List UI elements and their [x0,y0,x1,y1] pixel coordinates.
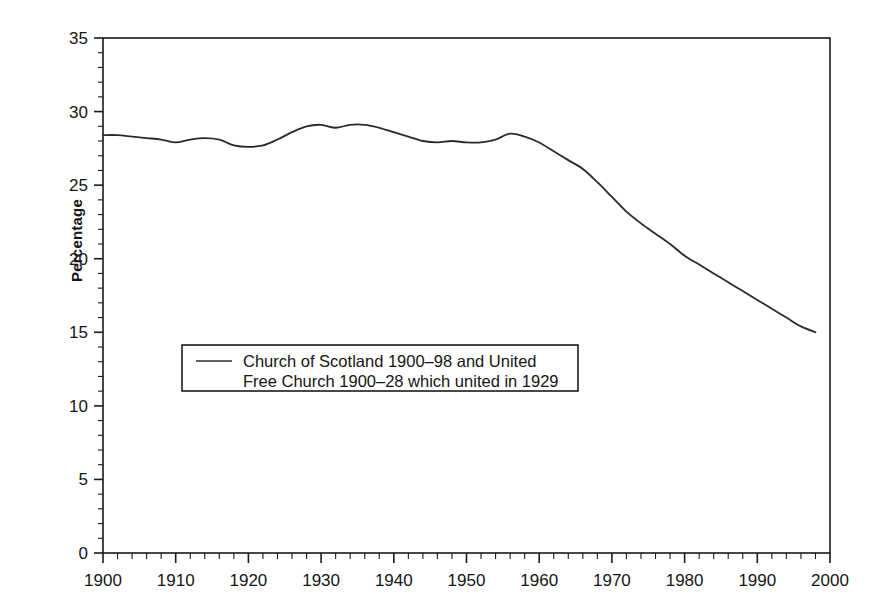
x-axis-tick-labels: 1900191019201930194019501960197019801990… [84,571,849,590]
legend-label-line2: Free Church 1900–28 which united in 1929 [243,372,559,390]
x-tick-label: 1930 [302,571,340,590]
y-axis-ticks [94,38,103,553]
y-tick-label: 35 [69,29,88,48]
x-tick-label: 1940 [375,571,413,590]
x-tick-label: 1910 [157,571,195,590]
line-chart-svg: 05101520253035 1900191019201930194019501… [0,0,874,616]
x-tick-label: 1900 [84,571,122,590]
x-tick-label: 1960 [520,571,558,590]
x-tick-label: 1980 [666,571,704,590]
y-tick-label: 10 [69,397,88,416]
chart-figure: Percentage 05101520253035 19001910192019… [0,0,874,616]
y-tick-label: 5 [79,470,88,489]
y-axis-title: Percentage [68,171,85,311]
x-tick-label: 1990 [738,571,776,590]
plot-frame [103,38,830,553]
x-axis-ticks [103,553,830,563]
legend-label-line1: Church of Scotland 1900–98 and United [243,352,537,370]
x-tick-label: 1920 [229,571,267,590]
y-tick-label: 0 [79,544,88,563]
chart-legend: Church of Scotland 1900–98 and United Fr… [182,345,578,391]
y-tick-label: 30 [69,103,88,122]
x-tick-label: 1970 [593,571,631,590]
y-tick-label: 15 [69,323,88,342]
x-tick-label: 2000 [811,571,849,590]
x-tick-label: 1950 [448,571,486,590]
